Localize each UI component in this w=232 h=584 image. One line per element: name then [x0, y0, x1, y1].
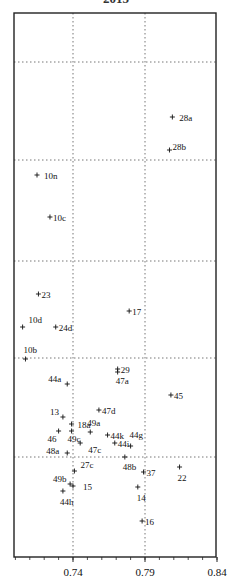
- point-label: 10d: [29, 315, 43, 325]
- data-point: 13: [50, 407, 66, 420]
- x-axis-ticks: 0.740.790.84: [15, 557, 227, 578]
- point-label: 10c: [53, 213, 66, 223]
- point-label: 45: [174, 391, 184, 401]
- scatter-plot: 0.740.790.84 28a28b10n10c2310d24d1710b29…: [0, 0, 232, 584]
- point-label: 44g: [130, 430, 144, 440]
- point-label: 22: [178, 473, 187, 483]
- data-point: 45: [168, 391, 183, 401]
- point-label: 28a: [179, 113, 192, 123]
- data-point: 46: [48, 429, 62, 444]
- point-label: 44a: [48, 374, 61, 384]
- data-point: 49b: [53, 474, 73, 487]
- point-label: 23: [41, 290, 51, 300]
- point-label: 44i: [118, 439, 130, 449]
- point-label: 13: [50, 407, 60, 417]
- data-point: 27c: [72, 460, 94, 474]
- data-point: 28a: [170, 113, 193, 123]
- data-point: 10n: [35, 171, 59, 181]
- data-point: 14: [135, 485, 146, 503]
- point-label: 10b: [23, 345, 37, 355]
- x-tick-label: 0.74: [63, 566, 83, 578]
- data-point: 10c: [47, 213, 66, 223]
- data-point: 10d: [20, 315, 42, 330]
- point-label: 28b: [172, 142, 186, 152]
- x-tick-label: 0.79: [135, 566, 155, 578]
- data-point: 16: [140, 517, 155, 527]
- point-label: 47c: [88, 445, 101, 455]
- point-label: 48b: [123, 462, 137, 472]
- point-label: 10n: [44, 171, 58, 181]
- data-point: 47d: [96, 406, 116, 416]
- point-label: 15: [83, 482, 93, 492]
- point-label: 37: [147, 468, 157, 478]
- data-point: 44h: [60, 489, 74, 507]
- point-label: 14: [137, 493, 147, 503]
- data-point: 44g: [128, 430, 144, 449]
- point-label: 46: [48, 434, 58, 444]
- data-point: 37: [141, 468, 156, 478]
- data-point: 49a: [87, 418, 100, 435]
- data-point: 10b: [23, 345, 38, 362]
- data-point: 44a: [48, 374, 69, 387]
- data-point: 28b: [167, 142, 187, 153]
- data-point: 23: [36, 290, 51, 300]
- point-label: 17: [132, 307, 142, 317]
- data-point: 24d: [53, 323, 73, 333]
- data-point: 48a: [46, 446, 69, 456]
- data-point: 22: [177, 465, 187, 483]
- data-points: 28a28b10n10c2310d24d1710b2947a44a4547d13…: [20, 113, 192, 527]
- point-label: 48a: [46, 446, 59, 456]
- point-label: 49b: [53, 474, 67, 484]
- point-label: 24d: [59, 323, 73, 333]
- x-tick-label: 0.84: [207, 566, 227, 578]
- data-point: 47c: [78, 441, 102, 455]
- data-point: 15: [71, 482, 93, 492]
- point-label: 29: [121, 365, 131, 375]
- point-label: 16: [145, 517, 155, 527]
- point-label: 44h: [60, 497, 74, 507]
- data-point: 17: [127, 307, 142, 317]
- point-label: 47d: [102, 406, 116, 416]
- point-label: 47a: [116, 376, 129, 386]
- point-label: 49c: [68, 434, 81, 444]
- point-label: 49a: [87, 418, 100, 428]
- point-label: 27c: [80, 460, 93, 470]
- data-point: 49c: [68, 429, 81, 444]
